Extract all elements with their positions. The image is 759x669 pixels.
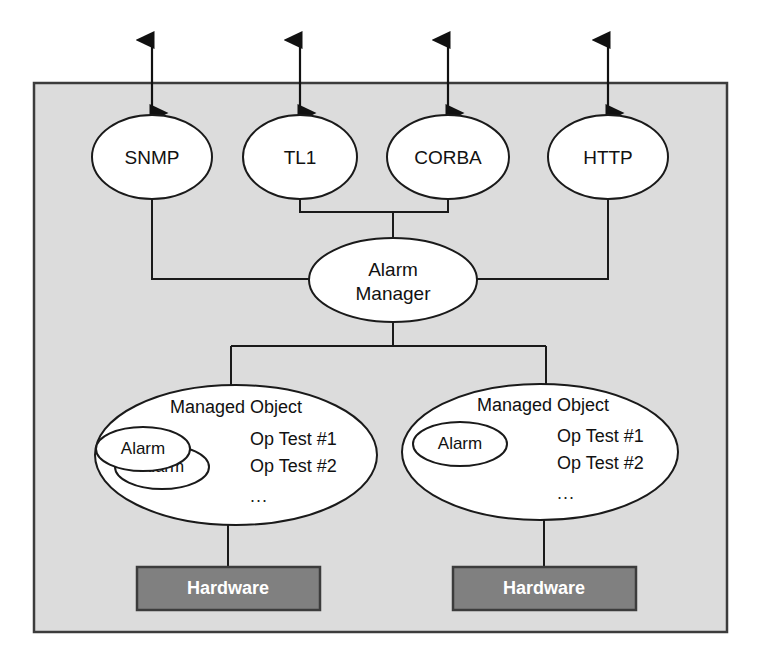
managed-object-1-alarm-1-label: Alarm — [121, 439, 165, 458]
architecture-diagram: SNMP TL1 CORBA HTTP Alarm Manager Manage… — [0, 0, 759, 669]
snmp-label: SNMP — [125, 147, 180, 168]
managed-object-1-op-2: Op Test #2 — [250, 456, 337, 476]
managed-object-2-alarm-1-label: Alarm — [438, 434, 482, 453]
alarm-manager-label-line1: Alarm — [368, 259, 418, 280]
hardware-block-2[interactable]: Hardware — [453, 567, 636, 610]
managed-object-2[interactable]: Managed Object Alarm Op Test #1 Op Test … — [402, 384, 678, 520]
managed-object-1-op-1: Op Test #1 — [250, 429, 337, 449]
managed-object-2-op-1: Op Test #1 — [557, 426, 644, 446]
diagram-root: SNMP TL1 CORBA HTTP Alarm Manager Manage… — [0, 0, 759, 669]
managed-object-1-title: Managed Object — [170, 397, 302, 417]
corba-label: CORBA — [414, 147, 482, 168]
managed-object-1-more: ... — [250, 486, 268, 506]
interface-node-corba[interactable]: CORBA — [387, 115, 509, 199]
alarm-manager-node[interactable]: Alarm Manager — [309, 238, 477, 322]
http-label: HTTP — [583, 147, 633, 168]
tl1-label: TL1 — [284, 147, 317, 168]
managed-object-2-more: ... — [557, 483, 575, 503]
managed-object-1[interactable]: Managed Object Alarm Alarm Op Test #1 Op… — [95, 385, 377, 525]
managed-object-2-title: Managed Object — [477, 395, 609, 415]
alarm-manager-label-line2: Manager — [356, 283, 432, 304]
interface-node-http[interactable]: HTTP — [548, 115, 668, 199]
interface-node-tl1[interactable]: TL1 — [243, 115, 357, 199]
hardware-block-1[interactable]: Hardware — [137, 567, 320, 610]
hardware-1-label: Hardware — [187, 578, 269, 598]
managed-object-2-op-2: Op Test #2 — [557, 453, 644, 473]
interface-node-snmp[interactable]: SNMP — [92, 115, 212, 199]
hardware-2-label: Hardware — [503, 578, 585, 598]
